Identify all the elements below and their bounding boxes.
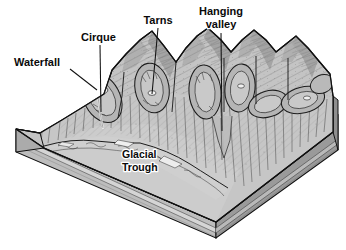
label-hanging-valley-line2: valley xyxy=(206,18,237,30)
glacial-landforms-figure: Waterfall Cirque Tarns Hanging valley Gl… xyxy=(0,0,346,250)
label-waterfall: Waterfall xyxy=(14,56,60,68)
label-hanging-valley: Hanging valley xyxy=(199,5,243,30)
label-cirque: Cirque xyxy=(81,31,116,43)
label-tarns: Tarns xyxy=(143,14,172,26)
tarn-lake-2 xyxy=(238,84,245,88)
label-glacial-trough: Glacial Trough xyxy=(122,148,158,173)
land-surface xyxy=(0,20,346,230)
label-glacial-trough-line1: Glacial xyxy=(122,148,157,160)
label-glacial-trough-line2: Trough xyxy=(122,161,158,173)
label-hanging-valley-line1: Hanging xyxy=(199,5,243,17)
leader-waterfall xyxy=(70,69,97,90)
tarn-lake-3 xyxy=(303,96,310,100)
block-diagram-svg: Waterfall Cirque Tarns Hanging valley Gl… xyxy=(0,0,346,250)
